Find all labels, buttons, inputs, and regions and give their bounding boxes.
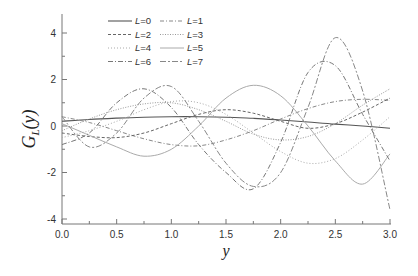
legend-label: L=5 — [187, 42, 203, 53]
y-tick-label: 2 — [50, 74, 56, 85]
legend-item: L=0 — [108, 15, 151, 26]
y-tick-label: 0 — [50, 121, 56, 132]
svg-text:GL(y): GL(y) — [19, 109, 41, 148]
plot-lines — [62, 38, 390, 210]
legend-item: L=2 — [108, 29, 151, 40]
axes — [62, 14, 391, 224]
y-axis-title-sub: L — [29, 129, 41, 136]
series-line-l-6 — [62, 61, 390, 190]
series-line-l-4 — [62, 101, 390, 164]
series-line-l-0 — [62, 117, 390, 129]
legend-item: L=6 — [108, 56, 151, 67]
y-tick-label: -2 — [47, 167, 56, 178]
legend-item: L=3 — [160, 29, 203, 40]
y-axis-title: GL(y) — [19, 109, 41, 148]
x-tick-label: 0.5 — [110, 229, 124, 240]
x-tick-label: 0.0 — [55, 229, 69, 240]
line-chart: 0.00.51.01.52.02.53.0 -4-2024 L=0L=1L=2L… — [0, 0, 418, 276]
y-ticks: -4-2024 — [47, 28, 67, 225]
legend-label: L=7 — [187, 56, 203, 67]
series-line-l-1 — [62, 99, 390, 146]
legend-label: L=2 — [135, 29, 151, 40]
x-axis-title: y — [220, 242, 230, 260]
y-tick-label: 4 — [50, 28, 56, 39]
y-axis-title-main: G — [19, 136, 39, 149]
y-axis-title-arg: (y) — [19, 109, 40, 129]
legend-item: L=1 — [160, 15, 203, 26]
series-line-l-5 — [62, 85, 390, 184]
legend-label: L=3 — [187, 29, 203, 40]
legend: L=0L=1L=2L=3L=4L=5L=6L=7 — [108, 15, 203, 67]
legend-item: L=7 — [160, 56, 203, 67]
x-tick-label: 2.5 — [328, 229, 342, 240]
x-tick-label: 2.0 — [274, 229, 288, 240]
x-tick-label: 1.0 — [164, 229, 178, 240]
x-ticks: 0.00.51.01.52.02.53.0 — [55, 219, 397, 240]
x-tick-label: 3.0 — [383, 229, 397, 240]
legend-item: L=5 — [160, 42, 203, 53]
x-tick-label: 1.5 — [219, 229, 233, 240]
series-line-l-3 — [62, 89, 390, 140]
legend-item: L=4 — [108, 42, 151, 53]
legend-label: L=1 — [187, 15, 203, 26]
y-tick-label: -4 — [47, 214, 56, 225]
legend-label: L=6 — [135, 56, 151, 67]
legend-label: L=0 — [135, 15, 151, 26]
legend-label: L=4 — [135, 42, 151, 53]
